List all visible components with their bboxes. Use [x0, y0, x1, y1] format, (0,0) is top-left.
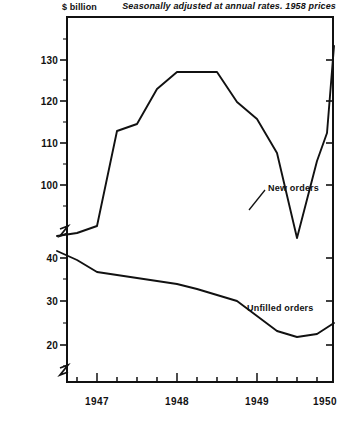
y-axis-minor-ticks — [63, 39, 68, 366]
x-axis-ticks — [77, 373, 317, 383]
y-axis-ticks — [60, 60, 68, 345]
leader-line-new-orders — [249, 190, 265, 210]
chart-vector-layer — [0, 0, 342, 422]
series-line-new-orders — [57, 46, 334, 238]
chart-root: $ billion Seasonally adjusted at annual … — [0, 0, 342, 422]
series-line-unfilled-orders — [57, 251, 334, 337]
y-axis-break-lower — [60, 365, 68, 375]
